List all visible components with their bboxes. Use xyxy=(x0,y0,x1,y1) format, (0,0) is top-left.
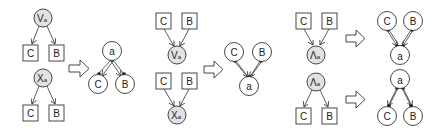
node-label: C xyxy=(383,16,390,27)
box-label: B xyxy=(326,111,333,122)
edge xyxy=(180,89,189,106)
panel-2: C B Va C B Xa C xyxy=(156,13,272,124)
edge xyxy=(47,86,55,104)
node-label: B xyxy=(410,16,417,27)
edge xyxy=(234,61,247,76)
box-label: C xyxy=(160,76,167,87)
node-label: C xyxy=(230,47,237,58)
node-label: B xyxy=(410,111,417,122)
node-label: C xyxy=(383,111,390,122)
transform-arrow-icon xyxy=(346,30,365,47)
edge xyxy=(304,90,312,107)
tree-x-a-incoming: C B Xa xyxy=(156,73,197,124)
node-label: a xyxy=(397,75,403,86)
node-label: B xyxy=(122,79,129,90)
node-label: a xyxy=(397,51,403,62)
node-label: a xyxy=(246,81,252,92)
transform-arrow-icon xyxy=(204,61,223,78)
edge xyxy=(32,86,39,104)
box-label: B xyxy=(53,108,60,119)
panel-3: C B Λa C B a xyxy=(296,12,423,126)
edge xyxy=(320,90,328,107)
edge xyxy=(403,88,412,106)
graph-c-b-to-a: C B a xyxy=(225,43,272,96)
edge xyxy=(387,30,397,46)
transform-arrow-icon xyxy=(346,91,365,108)
edge xyxy=(180,29,189,46)
box-label: C xyxy=(27,108,34,119)
edge xyxy=(164,89,174,106)
box-label: C xyxy=(27,48,34,59)
edge xyxy=(390,88,398,104)
tree-v-a-outgoing: Va C B xyxy=(23,9,64,61)
box-label: B xyxy=(186,16,193,27)
edge xyxy=(403,30,413,46)
box-label: C xyxy=(300,16,307,27)
edge xyxy=(388,88,397,106)
edge xyxy=(304,29,313,45)
graph-a-to-c-b: a C B xyxy=(89,42,135,94)
graph-c-b-to-a: C B a xyxy=(378,12,423,65)
box-label: B xyxy=(186,76,193,87)
node-label: a xyxy=(109,46,115,57)
tree-x-a-outgoing: Xa C B xyxy=(23,69,64,121)
edge xyxy=(47,26,55,44)
diagram-canvas: Va C B Xa C B a xyxy=(0,0,442,134)
transform-arrow-icon xyxy=(69,60,89,77)
edge xyxy=(32,26,39,44)
edge xyxy=(402,30,411,44)
box-label: C xyxy=(160,16,167,27)
diagram-figure: Va C B Xa C B a xyxy=(0,0,442,134)
tree-lambda-a-incoming: C B Λa xyxy=(296,13,337,64)
box-label: B xyxy=(326,16,333,27)
edge xyxy=(250,61,260,77)
box-label: C xyxy=(300,111,307,122)
node-label: B xyxy=(259,47,266,58)
edge xyxy=(389,30,398,44)
graph-a-to-c-b: a C B xyxy=(378,70,423,126)
edge xyxy=(251,61,262,76)
box-label: B xyxy=(53,48,60,59)
edge xyxy=(320,29,329,45)
tree-lambda-a-outgoing: Λa C B xyxy=(296,73,337,124)
edge xyxy=(402,88,410,104)
edge xyxy=(236,61,248,77)
edge xyxy=(164,29,174,46)
node-label: C xyxy=(94,79,101,90)
panel-1: Va C B Xa C B a xyxy=(23,9,135,121)
tree-v-a-incoming: C B Va xyxy=(156,13,197,64)
